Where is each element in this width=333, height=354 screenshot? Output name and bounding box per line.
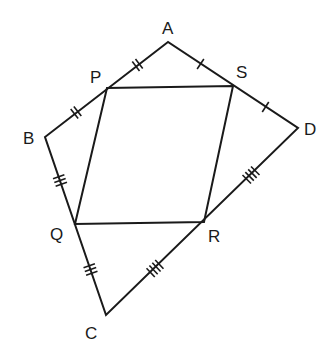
quadrilateral-midpoint-diagram: A B C D P Q R S (0, 0, 333, 354)
label-q: Q (50, 225, 63, 244)
parallelogram-pqrs-outline (75, 86, 233, 224)
equal-length-tick-marks (53, 59, 269, 277)
vertex-labels: A B C D P Q R S (23, 19, 316, 343)
label-d: D (304, 120, 316, 139)
inner-parallelogram-pqrs (75, 86, 233, 224)
label-b: B (23, 129, 34, 148)
label-s: S (236, 63, 247, 82)
tick-group-bq (53, 175, 67, 186)
quadrilateral-abcd-outline (45, 42, 298, 315)
label-c: C (85, 324, 97, 343)
outer-quadrilateral-abcd (45, 42, 298, 315)
label-r: R (208, 227, 220, 246)
label-a: A (162, 19, 174, 38)
label-p: P (90, 68, 101, 87)
tick-group-qc (84, 264, 98, 275)
